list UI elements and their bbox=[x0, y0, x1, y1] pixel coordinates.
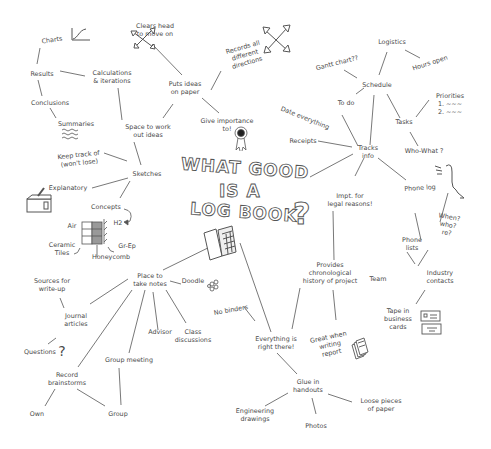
node-loose-pieces: Loose pieces of paper bbox=[360, 397, 401, 413]
node-conclusions: Conclusions bbox=[31, 99, 69, 107]
node-summaries: Summaries bbox=[58, 120, 94, 128]
crossed-arrows-icon bbox=[263, 25, 290, 53]
node-explanatory: Explanatory bbox=[49, 184, 87, 192]
title-question-mark: ? bbox=[293, 196, 310, 231]
node-group: Group bbox=[108, 410, 127, 418]
node-glue-handouts: Glue in handouts bbox=[293, 378, 323, 394]
node-results: Results bbox=[30, 70, 53, 78]
node-tracks-info: Tracks info bbox=[358, 144, 378, 160]
node-tasks: Tasks bbox=[395, 118, 412, 126]
node-h2: H2 bbox=[114, 219, 123, 227]
node-industry-contacts: Industry contacts bbox=[426, 269, 453, 285]
node-schedule: Schedule bbox=[362, 81, 391, 89]
node-concepts: Concepts bbox=[91, 203, 121, 211]
node-calculations: Calculations & iterations bbox=[93, 69, 132, 85]
node-advisor: Advisor bbox=[148, 328, 172, 336]
node-gr-ep: Gr-Ep bbox=[118, 242, 136, 250]
node-record-brainstorms: Record brainstorms bbox=[48, 371, 86, 387]
paper-stack-icon bbox=[352, 338, 368, 359]
node-engineering-drawings: Engineering drawings bbox=[236, 407, 274, 423]
node-who-what: Who-What ? bbox=[405, 147, 444, 155]
node-air: Air bbox=[68, 222, 77, 230]
node-honeycomb: Honeycomb bbox=[92, 253, 130, 261]
device-box-icon bbox=[27, 188, 51, 212]
node-give-importance: Give importance to! bbox=[201, 117, 254, 133]
node-provides-history: Provides chronological history of projec… bbox=[303, 261, 357, 285]
node-place-to-take-notes: Place to take notes bbox=[133, 272, 167, 288]
node-own: Own bbox=[30, 410, 44, 418]
chart-icon bbox=[72, 28, 90, 40]
node-sketches: Sketches bbox=[133, 170, 162, 178]
node-class-discussions: Class discussions bbox=[175, 328, 211, 344]
node-receipts: Receipts bbox=[289, 137, 316, 145]
node-logistics: Logistics bbox=[378, 38, 406, 46]
title-line-2: IS A bbox=[219, 181, 261, 201]
node-questions-mark: ? bbox=[58, 347, 65, 355]
node-to-do: To do bbox=[338, 99, 355, 107]
node-when-who-re: When? who? re? bbox=[435, 211, 461, 238]
node-puts-ideas: Puts ideas on paper bbox=[169, 80, 202, 96]
summaries-squiggle-icon bbox=[62, 129, 78, 139]
business-cards-icon bbox=[421, 311, 441, 334]
node-journal-articles: Journal articles bbox=[64, 312, 87, 328]
node-tape-business-cards: Tape in business cards bbox=[384, 307, 412, 331]
node-sources-writeup: Sources for write-up bbox=[34, 277, 70, 293]
doodle-flower-icon bbox=[208, 280, 219, 291]
node-group-meeting: Group meeting bbox=[105, 356, 153, 364]
node-team: Team bbox=[370, 275, 387, 283]
node-everything-right-there: Everything is right there! bbox=[255, 335, 297, 351]
node-doodle: Doodle bbox=[182, 277, 205, 285]
node-phone-lists: Phone lists bbox=[402, 236, 422, 252]
node-photos: Photos bbox=[305, 422, 327, 430]
node-space-to-work: Space to work out ideas bbox=[125, 123, 170, 139]
open-book-icon bbox=[204, 226, 236, 260]
phone-handset-icon bbox=[435, 165, 464, 198]
node-ceramic-tiles: Ceramic Tiles bbox=[49, 241, 75, 257]
node-questions: Questions bbox=[24, 348, 56, 356]
node-priorities: Priorities 1. ~~~ 2. ~~~ bbox=[436, 92, 464, 116]
node-impt-legal: Impt. for legal reasons! bbox=[327, 192, 372, 208]
node-clears-head: Clears head to move on bbox=[136, 22, 174, 38]
